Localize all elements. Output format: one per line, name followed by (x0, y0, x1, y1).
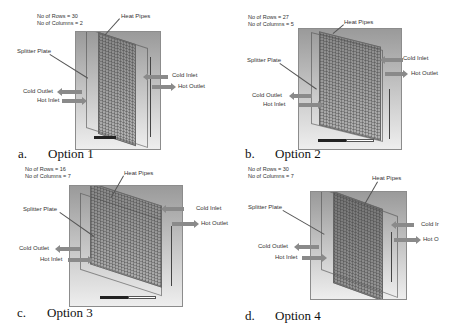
dimension-line (171, 226, 172, 286)
label-cold-inlet: Cold Inlet (172, 72, 197, 79)
caption-option-3: c.Option 3 (17, 305, 93, 321)
scale-bar (318, 139, 346, 142)
label-hot-inlet: Hot Inlet (263, 101, 285, 108)
rows-count: No of Rows = 27 (248, 14, 289, 21)
label-hot-inlet: Hot Inlet (275, 254, 297, 261)
cold-inlet-arrow (385, 58, 403, 62)
cold-outlet-arrow (62, 90, 82, 94)
label-splitter-plate: Splitter Plate (17, 48, 51, 55)
label-hot-outlet: Hot Outlet (201, 220, 228, 227)
cold-inlet-arrow (166, 207, 184, 211)
scale-bar (128, 296, 156, 299)
hot-outlet-arrow (385, 72, 403, 76)
cold-inlet-arrow (148, 75, 168, 79)
heat-pipe-array (319, 31, 381, 140)
columns-count: No of Columns = 5 (248, 21, 294, 28)
caption-letter: d. (245, 308, 275, 324)
panel-option-4: No of Rows = 30 No of Columns = 7 Heat P… (228, 165, 455, 334)
label-hot-outlet: Hot Outlet (178, 83, 205, 90)
label-splitter-plate: Splitter Plate (248, 204, 282, 211)
label-cold-inlet: Cold Ir (421, 221, 439, 228)
heat-pipe-array (333, 191, 383, 300)
cold-outlet-arrow (60, 247, 80, 251)
label-hot-outlet: Hot O (423, 236, 439, 243)
hot-inlet-arrow (68, 258, 88, 262)
rows-count: No of Rows = 30 (248, 166, 289, 173)
rows-count: No of Rows = 16 (25, 166, 66, 173)
hot-inlet-arrow (62, 99, 82, 103)
label-heat-pipes: Heat Pipes (124, 170, 153, 177)
hot-outlet-arrow (172, 222, 194, 226)
label-heat-pipes: Heat Pipes (121, 13, 150, 20)
heat-exchanger-render (69, 185, 183, 307)
label-cold-outlet: Cold Outlet (23, 88, 53, 95)
panel-option-1: No of Rows = 30 No of Columns = 2 Heat P… (0, 0, 228, 165)
caption-letter: b. (245, 146, 275, 162)
hot-outlet-arrow (152, 85, 171, 89)
label-cold-outlet: Cold Outlet (19, 245, 49, 252)
label-cold-outlet: Cold Outlet (258, 243, 288, 250)
panel-option-3: No of Rows = 16 No of Columns = 7 Heat P… (0, 165, 228, 334)
dimension-line (389, 89, 390, 139)
caption-option-2: b.Option 2 (245, 146, 321, 162)
scale-bar (94, 136, 116, 139)
hot-inlet-arrow (298, 103, 318, 107)
heat-exchanger-render (75, 31, 161, 150)
cold-outlet-arrow (294, 94, 312, 98)
dimension-line (391, 232, 392, 282)
scale-bar (346, 139, 374, 142)
label-cold-inlet: Cold Inlet (403, 55, 428, 62)
label-cold-outlet: Cold Outlet (252, 92, 282, 99)
label-hot-outlet: Hot Outlet (411, 70, 438, 77)
dimension-line (150, 57, 151, 137)
caption-letter: c. (17, 305, 47, 321)
heat-pipe-array (98, 32, 136, 146)
caption-label: Option 1 (48, 146, 94, 161)
label-hot-inlet: Hot Inlet (37, 97, 59, 104)
columns-count: No of Columns = 7 (248, 173, 294, 180)
heat-exchanger-render (298, 28, 402, 150)
caption-label: Option 4 (275, 308, 321, 323)
hot-outlet-arrow (394, 238, 416, 242)
label-splitter-plate: Splitter Plate (247, 57, 281, 64)
caption-option-1: a.Option 1 (18, 146, 94, 162)
label-splitter-plate: Splitter Plate (23, 206, 57, 213)
columns-count: No of Columns = 7 (25, 173, 71, 180)
caption-label: Option 2 (275, 146, 321, 161)
caption-label: Option 3 (47, 305, 93, 320)
panel-option-2: No of Rows = 27 No of Columns = 5 Heat P… (228, 0, 455, 165)
caption-option-4: d.Option 4 (245, 308, 321, 324)
columns-count: No of Columns = 2 (37, 20, 83, 27)
cold-inlet-arrow (396, 223, 414, 227)
cold-outlet-arrow (299, 245, 319, 249)
rows-count: No of Rows = 30 (37, 13, 78, 20)
heat-exchanger-render (310, 191, 407, 300)
caption-letter: a. (18, 146, 48, 162)
hot-inlet-arrow (302, 256, 322, 260)
label-hot-inlet: Hot Inlet (40, 256, 62, 263)
label-heat-pipes: Heat Pipes (344, 19, 373, 26)
scale-bar (100, 296, 128, 299)
label-cold-inlet: Cold Inlet (196, 205, 221, 212)
